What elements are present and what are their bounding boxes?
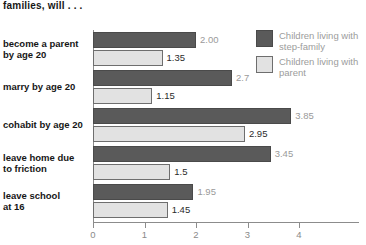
x-axis-tick-label: 3 xyxy=(245,229,250,240)
legend-swatch xyxy=(256,30,273,47)
category-label-line: leave school xyxy=(3,190,91,202)
bar-value-label: 2.7 xyxy=(236,70,249,86)
category-label-line: cohabit by age 20 xyxy=(3,119,91,131)
x-axis-tick xyxy=(196,222,197,228)
x-axis-line xyxy=(93,222,359,223)
legend-label: Children living with parent xyxy=(279,56,365,78)
category-label: leave schoolat 16 xyxy=(3,190,91,213)
bar-value-label: 3.85 xyxy=(295,108,314,124)
bar-parent xyxy=(93,126,245,142)
bar-parent xyxy=(93,88,152,104)
legend-label: Children living with step-family xyxy=(279,30,365,52)
category-label-line: by age 20 xyxy=(3,49,91,61)
bar-step xyxy=(93,108,291,124)
bar-value-label: 1.95 xyxy=(197,184,216,200)
x-axis-tick-label: 0 xyxy=(90,229,95,240)
bar-step xyxy=(93,146,271,162)
x-axis-tick xyxy=(299,222,300,228)
bar-value-label: 1.5 xyxy=(174,164,187,180)
category-label: cohabit by age 20 xyxy=(3,119,91,131)
legend-item: Children living with parent xyxy=(256,56,365,78)
category-label: leave home dueto friction xyxy=(3,152,91,175)
x-axis-tick-label: 1 xyxy=(142,229,147,240)
category-label-line: at 16 xyxy=(3,201,91,213)
bar-chart: families, will . . . become a parentby a… xyxy=(0,0,366,245)
category-label-line: become a parent xyxy=(3,38,91,50)
category-label-line: marry by age 20 xyxy=(3,81,91,93)
category-label-line: to friction xyxy=(3,163,91,175)
bar-parent xyxy=(93,164,170,180)
bar-step xyxy=(93,184,193,200)
bar-step xyxy=(93,32,196,48)
bar-value-label: 2.00 xyxy=(200,32,219,48)
bar-parent xyxy=(93,50,163,66)
x-axis-tick xyxy=(93,222,94,228)
x-axis-tick-label: 4 xyxy=(296,229,301,240)
bar-parent xyxy=(93,202,168,218)
bar-value-label: 2.95 xyxy=(249,126,268,142)
legend-item: Children living with step-family xyxy=(256,30,365,52)
x-axis-tick xyxy=(248,222,249,228)
bar-value-label: 1.15 xyxy=(156,88,175,104)
bar-value-label: 3.45 xyxy=(275,146,294,162)
bar-value-label: 1.35 xyxy=(167,50,186,66)
legend-swatch xyxy=(256,56,273,73)
category-label-line: leave home due xyxy=(3,152,91,164)
category-label: marry by age 20 xyxy=(3,81,91,93)
bar-value-label: 1.45 xyxy=(172,202,191,218)
x-axis-tick-label: 2 xyxy=(193,229,198,240)
bar-step xyxy=(93,70,232,86)
category-label: become a parentby age 20 xyxy=(3,38,91,61)
x-axis-tick xyxy=(145,222,146,228)
